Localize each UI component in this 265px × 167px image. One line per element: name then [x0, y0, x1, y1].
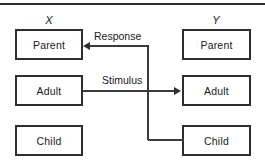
box-x-parent-label: Parent: [33, 39, 65, 51]
box-y-parent-label: Parent: [200, 39, 232, 51]
column-header-y: Y: [196, 14, 236, 26]
response-connector-segment-top: [90, 45, 149, 47]
box-y-adult-label: Adult: [204, 85, 229, 97]
box-x-adult-label: Adult: [37, 85, 62, 97]
response-connector-segment-bottom: [148, 139, 184, 141]
stimulus-connector-segment: [83, 90, 175, 92]
box-x-child-label: Child: [37, 135, 62, 147]
diagram-canvas: X Y Parent Adult Child Parent Adult Chil…: [0, 0, 265, 167]
box-x-adult[interactable]: Adult: [15, 75, 83, 106]
response-connector-segment-vertical: [147, 45, 149, 140]
stimulus-connector-label: Stimulus: [100, 74, 144, 86]
box-y-child[interactable]: Child: [182, 125, 251, 156]
column-header-x: X: [29, 14, 69, 26]
top-divider-rule: [0, 3, 265, 5]
response-arrowhead-icon: [83, 42, 90, 50]
box-x-parent[interactable]: Parent: [15, 29, 83, 60]
response-connector-label: Response: [92, 30, 143, 42]
stimulus-arrowhead-icon: [174, 87, 181, 95]
box-y-adult[interactable]: Adult: [182, 75, 251, 106]
box-y-child-label: Child: [204, 135, 229, 147]
box-y-parent[interactable]: Parent: [182, 29, 251, 60]
box-x-child[interactable]: Child: [15, 125, 83, 156]
